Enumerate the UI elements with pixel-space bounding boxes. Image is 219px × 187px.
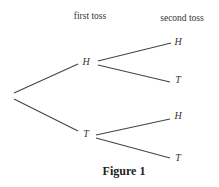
node-hh: H — [173, 36, 182, 47]
edge-root-to-t — [14, 99, 78, 131]
second-toss-header: second toss — [160, 13, 204, 23]
edge-h-to-h — [98, 43, 171, 61]
node-first-h: H — [81, 56, 90, 67]
coin-toss-tree-diagram: first toss second toss H T H T H T Figur… — [0, 0, 219, 187]
edge-h-to-t — [98, 65, 170, 82]
node-tt: T — [175, 152, 182, 163]
edge-t-to-h — [96, 119, 170, 135]
node-ht: T — [175, 74, 182, 85]
figure-caption: Figure 1 — [103, 164, 146, 178]
edge-t-to-t — [96, 138, 170, 158]
node-first-t: T — [83, 128, 90, 139]
node-th: H — [173, 110, 182, 121]
edge-root-to-h — [14, 64, 78, 93]
first-toss-header: first toss — [74, 11, 107, 21]
